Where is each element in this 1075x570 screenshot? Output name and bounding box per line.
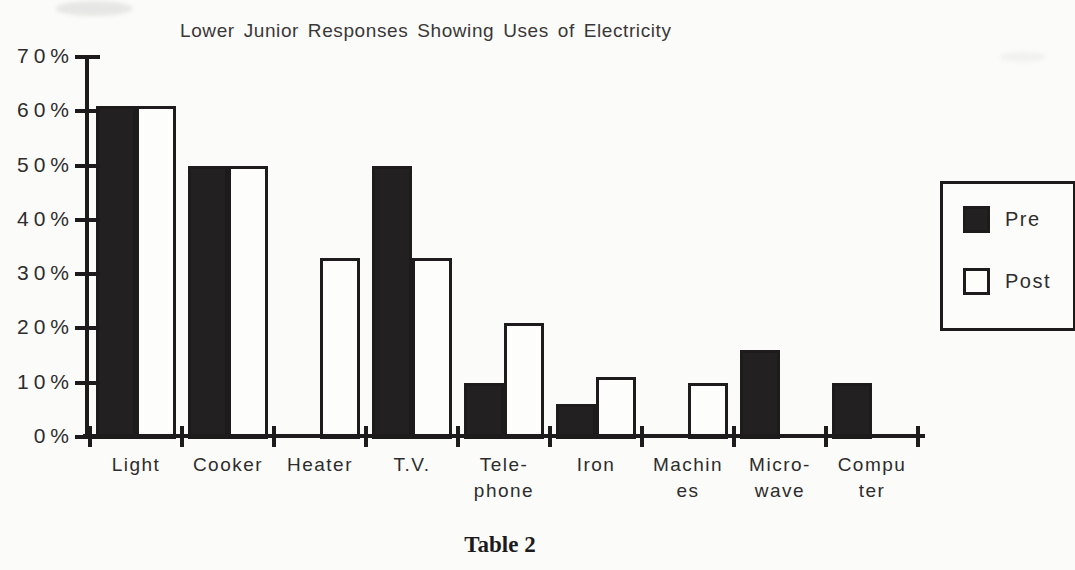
bar-post-telephone [504,323,544,439]
y-axis-tick-10 [75,381,100,385]
y-axis-label-60: 60% [0,98,74,122]
bar-pre-cooker [188,166,228,439]
bar-post-iron [596,377,636,439]
bar-post-t-v [412,258,452,439]
y-axis-tick-30 [75,272,100,276]
y-axis-label-50: 50% [0,153,74,177]
x-axis-tick-2 [272,426,276,447]
scanned-chart-page: Lower Junior Responses Showing Uses of E… [0,0,1075,570]
bar-post-heater [320,258,360,439]
x-axis-label-computer: Computer [817,452,927,504]
y-axis-label-20: 20% [0,315,74,339]
x-axis-tick-1 [180,426,184,447]
bar-pre-light [96,106,136,439]
x-axis-label-line2: phone [449,478,559,504]
x-axis-tick-6 [640,426,644,447]
y-axis-label-70: 70% [0,44,74,68]
y-axis-tick-50 [75,164,100,168]
y-axis-label-10: 10% [0,370,74,394]
x-axis-tick-3 [364,426,368,447]
x-axis-label-line1: Compu [817,452,927,478]
x-axis-tick-5 [548,426,552,447]
legend-item-post: Post [963,268,1051,295]
bar-pre-micro-wave [740,350,780,439]
legend-label-post: Post [1005,270,1051,293]
bar-pre-computer [832,383,872,439]
bar-chart-plot: 70%60%50%40%30%20%10%0%LightCookerHeater… [0,0,1075,570]
x-axis-tick-0 [88,426,92,447]
x-axis-tick-7 [732,426,736,447]
legend-label-pre: Pre [1005,208,1041,231]
x-axis-label-line2: ter [817,478,927,504]
pre-series-swatch-icon [963,206,990,233]
y-axis-label-30: 30% [0,261,74,285]
y-axis-tick-70 [75,55,100,59]
bar-pre-t-v [372,166,412,439]
y-axis-label-0: 0% [0,424,74,448]
x-axis-tick-9 [916,426,920,447]
bar-post-light [136,106,176,439]
y-axis-tick-40 [75,218,100,222]
y-axis-tick-20 [75,326,100,330]
bar-pre-telephone [464,383,504,439]
x-axis-line [83,434,925,438]
bar-post-machines [688,383,728,439]
legend-item-pre: Pre [963,206,1041,233]
x-axis-tick-8 [824,426,828,447]
x-axis-tick-4 [456,426,460,447]
bar-post-cooker [228,166,268,439]
table-caption: Table 2 [380,532,620,558]
chart-legend: Pre Post [940,181,1075,331]
post-series-swatch-icon [963,268,990,295]
y-axis-label-40: 40% [0,207,74,231]
y-axis-tick-60 [75,109,100,113]
